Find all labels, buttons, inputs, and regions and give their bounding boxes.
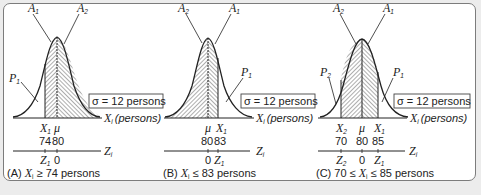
- area-label-a1: A1: [228, 1, 240, 15]
- value-80: 80: [356, 135, 368, 147]
- marker-mu: μ: [358, 121, 365, 135]
- sigma-label: σ = 12 persons: [92, 95, 166, 107]
- marker-x1: X1: [39, 121, 51, 135]
- marker-x1: X1: [215, 121, 227, 135]
- z-axis-label: Zi: [104, 144, 113, 158]
- area-a1-hatch: [208, 38, 218, 118]
- marker-mu: μ: [204, 121, 211, 135]
- area-label-a1: A1: [382, 1, 394, 15]
- value-83: 83: [214, 135, 226, 147]
- normal-distribution-diagram: A1 A2 P1 σ = 12 persons Xi(persons) X1 μ…: [0, 0, 481, 195]
- x-axis-label: Xi(persons): [255, 111, 314, 125]
- z-axis-label: Zi: [409, 144, 418, 158]
- area-label-a1: A1: [27, 1, 39, 15]
- area-label-a2: A2: [177, 1, 189, 15]
- x-axis-label: Xi(persons): [409, 111, 468, 125]
- marker-x2: X2: [335, 121, 347, 135]
- area-a2-hatch: [341, 39, 362, 118]
- marker-z2: Z2: [336, 153, 347, 167]
- marker-x1: X1: [373, 121, 385, 135]
- panel-c: A2 A1 P2 P1 σ = 12 persons Xi(persons) X…: [316, 1, 471, 180]
- area-a1-hatch: [45, 37, 57, 118]
- z-axis-label: Zi: [256, 144, 265, 158]
- tail-label-p2: P2: [319, 65, 331, 79]
- panel-b: A2 A1 P1 σ = 12 persons Xi(persons) μ X1…: [163, 1, 318, 180]
- panel-a: A1 A2 P1 σ = 12 persons Xi(persons) X1 μ…: [7, 1, 166, 180]
- caption-a: (A) Xi ≥ 74 persons: [7, 166, 101, 180]
- value-74: 74: [39, 135, 51, 147]
- sigma-label: σ = 12 persons: [397, 95, 471, 107]
- value-80: 80: [201, 135, 213, 147]
- marker-mu: μ: [53, 121, 60, 135]
- value-70: 70: [335, 135, 347, 147]
- value-85: 85: [372, 135, 384, 147]
- value-80: 80: [52, 135, 64, 147]
- tail-label-p1: P1: [392, 65, 404, 79]
- marker-z1: Z1: [214, 153, 225, 167]
- marker-z0: 0: [54, 154, 60, 166]
- marker-z0: 0: [359, 154, 365, 166]
- area-label-a2: A2: [76, 1, 88, 15]
- tail-label-p1: P1: [8, 71, 20, 85]
- tail-label-p1: P1: [240, 65, 252, 79]
- marker-z1: Z1: [374, 153, 385, 167]
- x-axis-label: Xi(persons): [103, 111, 162, 125]
- caption-c: (C) 70 ≤ Xi ≤ 85 persons: [316, 166, 435, 180]
- area-label-a2: A2: [332, 1, 344, 15]
- marker-z0: 0: [205, 154, 211, 166]
- sigma-label: σ = 12 persons: [244, 95, 318, 107]
- marker-z1: Z1: [40, 153, 51, 167]
- caption-b: (B) Xi ≤ 83 persons: [163, 166, 257, 180]
